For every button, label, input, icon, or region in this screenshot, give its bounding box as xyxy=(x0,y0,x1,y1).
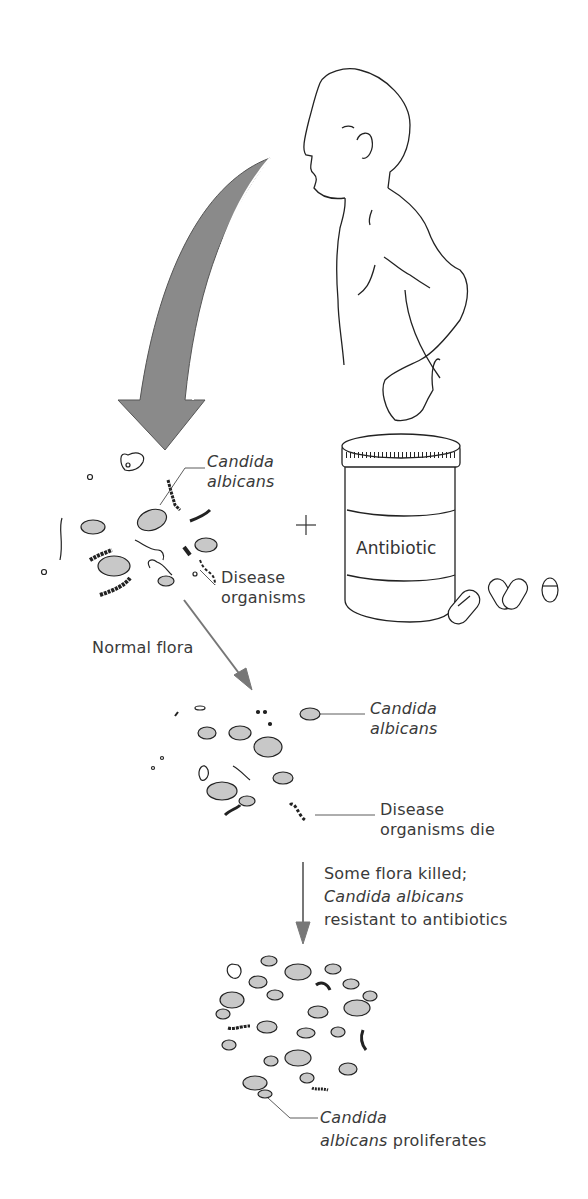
stage2-disease-label-1: Disease xyxy=(380,800,444,820)
stage3-label-italic: albicans xyxy=(320,1131,388,1150)
boy-figure xyxy=(304,69,468,421)
arrow2-label-1: Some flora killed; xyxy=(324,864,467,884)
stage2-microbes xyxy=(152,706,321,820)
arrow2-label-2: Candida albicans xyxy=(324,887,464,907)
stage2-disease-label-2: organisms die xyxy=(380,820,495,840)
stage3-label-rest: proliferates xyxy=(388,1131,487,1150)
stage1-candida-label-1: Candida xyxy=(207,452,274,472)
stage1-candida-label-2: albicans xyxy=(207,472,275,492)
stage3-microbes xyxy=(216,956,377,1098)
stage1-disease-label-2: organisms xyxy=(221,588,306,608)
stage2-pointers xyxy=(315,714,375,815)
stage3-label-2: albicans proliferates xyxy=(320,1131,487,1151)
stage1-disease-label-1: Disease xyxy=(221,568,285,588)
arrow-normal-flora xyxy=(184,600,252,690)
arrow1-label: Normal flora xyxy=(92,638,194,658)
plus-sign-shape xyxy=(296,515,316,535)
stage1-microbes xyxy=(42,453,218,595)
arrow-some-flora-killed xyxy=(296,862,310,944)
capsules xyxy=(444,576,558,628)
antibiotic-jar-label: Antibiotic xyxy=(356,538,436,558)
stage2-candida-label-2: albicans xyxy=(370,719,438,739)
big-curved-arrow xyxy=(118,158,270,450)
stage2-candida-label-1: Candida xyxy=(370,699,437,719)
arrow2-label-3: resistant to antibiotics xyxy=(324,910,508,930)
antibiotic-jar xyxy=(342,434,460,622)
stage3-label-1: Candida xyxy=(320,1108,387,1128)
stage3-pointer xyxy=(268,1098,318,1118)
